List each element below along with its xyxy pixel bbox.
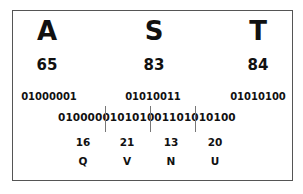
base64-char: U xyxy=(200,155,230,167)
concatenated-bitstring: 010000010101001101010100 xyxy=(58,111,236,123)
sextet-bits: 010100 xyxy=(191,111,235,123)
sextet-value: 20 xyxy=(200,136,230,148)
sextet-value: 13 xyxy=(156,136,186,148)
ascii-code-t: 84 xyxy=(228,56,288,74)
input-char-a: A xyxy=(17,16,77,46)
base64-char: Q xyxy=(68,155,98,167)
ascii-code-a: 65 xyxy=(17,56,77,74)
base64-char: V xyxy=(112,155,142,167)
input-char-s: S xyxy=(124,16,184,46)
sextet-value: 16 xyxy=(68,136,98,148)
sextet-bits: 010101 xyxy=(102,111,146,123)
sextet-divider xyxy=(150,106,151,132)
base64-char: N xyxy=(156,155,186,167)
sextet-divider xyxy=(195,106,196,132)
input-char-t: T xyxy=(228,16,288,46)
sextet-bits: 010000 xyxy=(58,111,102,123)
binary-octet-a: 01000001 xyxy=(9,91,89,102)
binary-octet-s: 01010011 xyxy=(113,91,193,102)
ascii-code-s: 83 xyxy=(124,56,184,74)
binary-octet-t: 01010100 xyxy=(218,91,298,102)
sextet-value: 21 xyxy=(112,136,142,148)
sextet-divider xyxy=(105,106,106,132)
sextet-bits: 001101 xyxy=(147,111,191,123)
